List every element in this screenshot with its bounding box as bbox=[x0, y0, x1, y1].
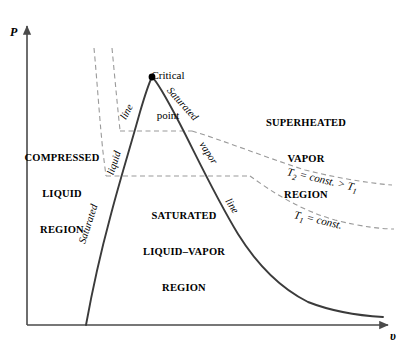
isotherm-t1-subscript: 1 bbox=[298, 216, 304, 226]
region-compressed-liquid-line1: COMPRESSED bbox=[12, 152, 112, 164]
isotherm-t2-liquid-branch bbox=[112, 48, 120, 130]
region-superheated-vapor-line2: VAPOR bbox=[250, 153, 362, 165]
region-label-compressed-liquid: COMPRESSED LIQUID REGION bbox=[12, 128, 112, 260]
y-axis-label: P bbox=[10, 26, 17, 40]
pv-diagram: P υ Critical point COMPRESSED LIQUID REG… bbox=[0, 0, 407, 351]
region-label-saturated-liquid-vapor: SATURATED LIQUID–VAPOR REGION bbox=[128, 186, 240, 318]
region-compressed-liquid-line3: REGION bbox=[12, 224, 112, 236]
region-saturated-lv-line1: SATURATED bbox=[128, 210, 240, 222]
region-saturated-lv-line3: REGION bbox=[128, 282, 240, 294]
isotherm-t2-subscript: 2 bbox=[291, 173, 297, 183]
region-saturated-lv-line2: LIQUID–VAPOR bbox=[128, 246, 240, 258]
critical-point-label-line1: Critical bbox=[133, 69, 203, 82]
region-label-superheated-vapor: SUPERHEATED VAPOR REGION bbox=[250, 93, 362, 225]
region-superheated-vapor-line1: SUPERHEATED bbox=[250, 117, 362, 129]
x-axis-label: υ bbox=[390, 330, 396, 344]
region-compressed-liquid-line2: LIQUID bbox=[12, 188, 112, 200]
